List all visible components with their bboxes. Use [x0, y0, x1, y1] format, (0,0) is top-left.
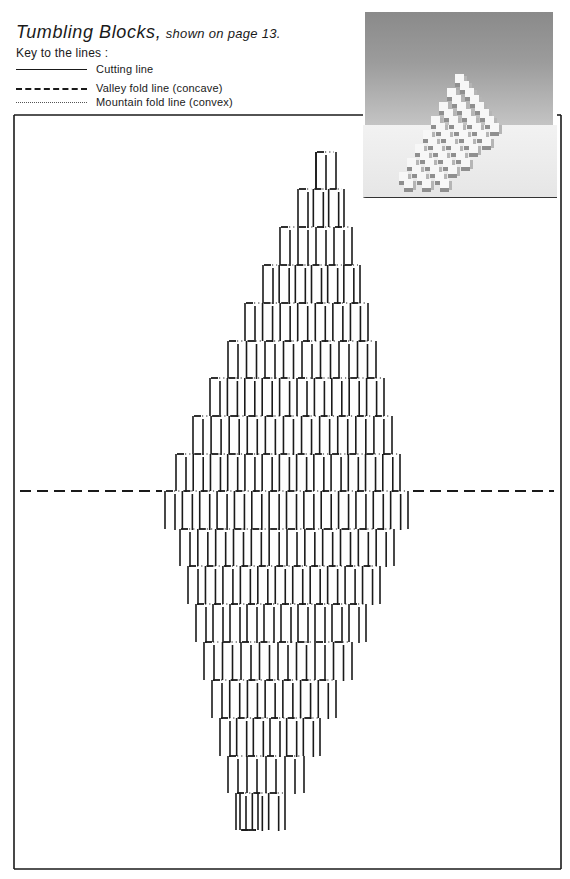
- finished-card-photo: [363, 12, 557, 198]
- photo-blocks: [363, 12, 557, 197]
- tumbling-blocks-diagram: [165, 152, 408, 831]
